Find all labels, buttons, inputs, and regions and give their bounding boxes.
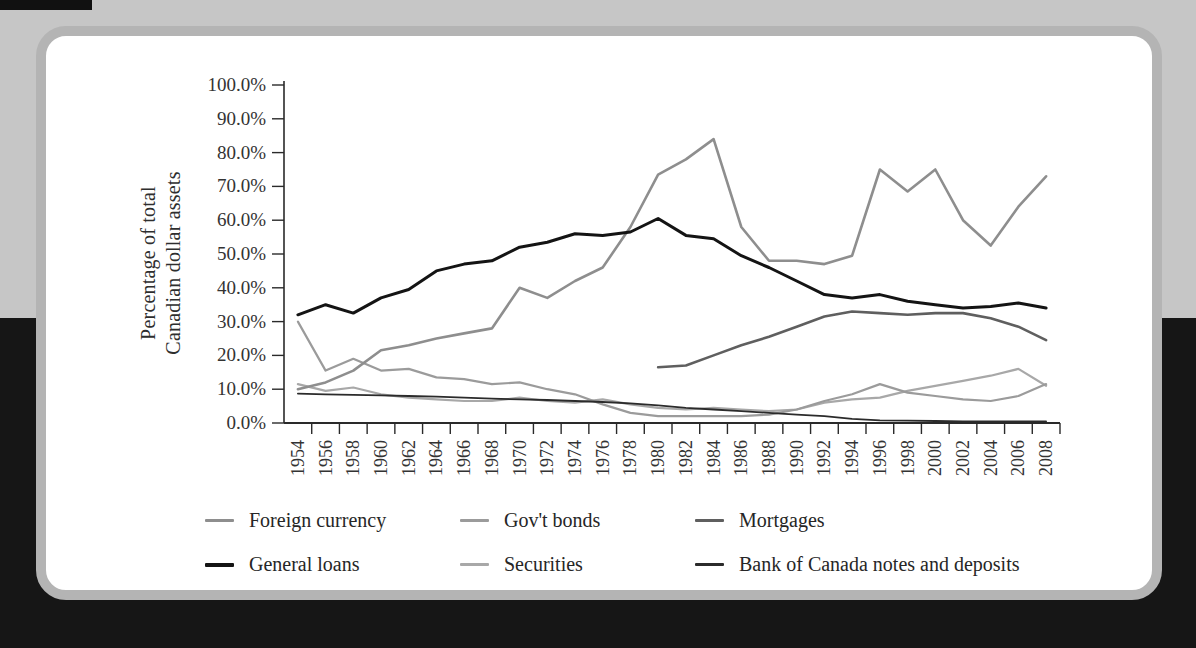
y-tick-label: 10.0% <box>217 378 266 399</box>
x-tick-label: 2006 <box>1008 440 1028 476</box>
x-tick-label: 1980 <box>648 440 668 476</box>
y-tick-label: 80.0% <box>217 142 266 163</box>
series-line-foreign-currency <box>298 139 1046 389</box>
y-tick-label: 70.0% <box>217 175 266 196</box>
y-axis-title-line1: Percentage of total <box>136 93 161 433</box>
y-tick-label: 20.0% <box>217 344 266 365</box>
x-tick-label: 1976 <box>593 440 613 476</box>
y-tick-label: 100.0% <box>207 74 266 95</box>
x-tick-label: 2008 <box>1036 440 1056 476</box>
y-tick-label: 0.0% <box>226 412 266 433</box>
x-tick-label: 1986 <box>731 440 751 476</box>
x-tick-label: 1964 <box>426 440 446 476</box>
x-tick-label: 1990 <box>787 440 807 476</box>
x-tick-label: 1954 <box>288 440 308 476</box>
y-tick-label: 50.0% <box>217 243 266 264</box>
x-tick-label: 2002 <box>953 440 973 476</box>
series-line-gov-t-bonds <box>298 322 1046 417</box>
x-tick-label: 2004 <box>981 440 1001 476</box>
series-line-securities <box>298 369 1046 411</box>
x-tick-label: 1994 <box>842 440 862 476</box>
x-tick-label: 1988 <box>759 440 779 476</box>
x-tick-label: 1972 <box>537 440 557 476</box>
x-tick-label: 1996 <box>870 440 890 476</box>
y-axis-title: Percentage of total Canadian dollar asse… <box>136 93 186 433</box>
x-tick-label: 1992 <box>814 440 834 476</box>
x-tick-label: 2000 <box>925 440 945 476</box>
y-tick-label: 40.0% <box>217 277 266 298</box>
x-tick-label: 1978 <box>620 440 640 476</box>
y-tick-label: 60.0% <box>217 209 266 230</box>
x-tick-label: 1962 <box>399 440 419 476</box>
x-tick-label: 1970 <box>510 440 530 476</box>
y-axis-title-line2: Canadian dollar assets <box>161 93 186 433</box>
x-tick-label: 1968 <box>482 440 502 476</box>
series-line-mortgages <box>658 312 1046 368</box>
x-tick-label: 1984 <box>704 440 724 476</box>
x-tick-label: 1966 <box>454 440 474 476</box>
y-tick-label: 90.0% <box>217 108 266 129</box>
x-tick-label: 1982 <box>676 440 696 476</box>
x-tick-label: 1956 <box>316 440 336 476</box>
y-tick-label: 30.0% <box>217 311 266 332</box>
x-tick-label: 1958 <box>343 440 363 476</box>
x-tick-label: 1998 <box>898 440 918 476</box>
x-tick-label: 1960 <box>371 440 391 476</box>
series-line-general-loans <box>298 219 1046 315</box>
x-tick-label: 1974 <box>565 440 585 476</box>
